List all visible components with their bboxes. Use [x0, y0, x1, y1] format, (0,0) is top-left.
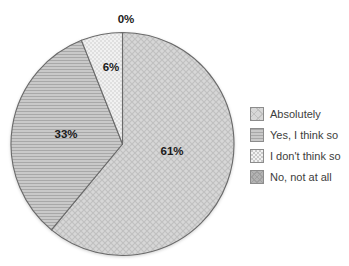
legend-swatch-darkhatch-icon [250, 170, 264, 184]
legend-label-yes-i-think-so: Yes, I think so [270, 128, 338, 142]
legend-label-absolutely: Absolutely [270, 107, 321, 121]
pie-chart-figure: 61%33%6%0% Absolutely Yes, I think so I … [0, 0, 349, 266]
legend-item-i-dont-think-so: I don't think so [250, 149, 341, 163]
legend-label-no-not-at-all: No, not at all [270, 170, 332, 184]
legend-label-i-dont-think-so: I don't think so [270, 149, 341, 163]
chart-legend: Absolutely Yes, I think so I don't think… [250, 107, 341, 191]
pie-slice-label-i-don-t-think-so: 6% [103, 61, 120, 73]
legend-swatch-crosshatch-icon [250, 107, 264, 121]
legend-item-yes-i-think-so: Yes, I think so [250, 128, 341, 142]
pie-slice-label-yes-i-think-so: 33% [54, 128, 77, 140]
legend-swatch-hlines-icon [250, 128, 264, 142]
legend-item-no-not-at-all: No, not at all [250, 170, 341, 184]
pie-slice-label-absolutely: 61% [160, 145, 183, 157]
legend-item-absolutely: Absolutely [250, 107, 341, 121]
pie-slices [11, 33, 234, 256]
pie-slice-label-no-not-at-all: 0% [118, 13, 135, 25]
legend-swatch-dots-icon [250, 149, 264, 163]
